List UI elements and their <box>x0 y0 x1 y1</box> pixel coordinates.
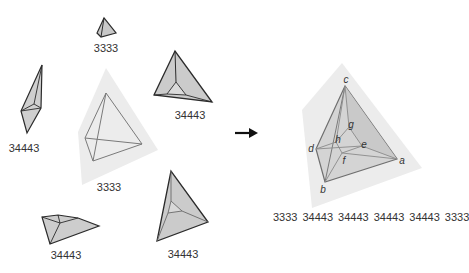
flat-bottom-left-polyhedron <box>42 215 99 244</box>
sequence-item: 34443 <box>302 211 333 223</box>
sequence-item: 3333 <box>445 211 469 223</box>
vertex-label-h: h <box>335 135 341 145</box>
vertex-label-f: f <box>343 156 346 166</box>
vertex-label-g: g <box>348 120 354 130</box>
spindle-left-label: 34443 <box>9 142 40 154</box>
vertex-label-c: c <box>344 75 349 85</box>
center-halo-tetrahedron <box>78 68 158 185</box>
sequence-item: 3333 <box>273 211 297 223</box>
right-arrow-icon <box>235 128 258 138</box>
tetra-top-right-polyhedron <box>154 51 212 102</box>
vertex-label-d: d <box>308 144 314 154</box>
vertex-label-a: a <box>399 156 405 166</box>
small-top-label: 3333 <box>94 42 118 54</box>
vertex-label-b: b <box>320 185 326 195</box>
center-halo-label: 3333 <box>97 181 121 193</box>
flat-bottom-left-label: 34443 <box>51 249 82 261</box>
tetra-bottom-right-polyhedron <box>157 171 208 241</box>
sequence-item: 34443 <box>338 211 369 223</box>
sequence-item: 34443 <box>409 211 440 223</box>
tetra-bottom-right-label: 34443 <box>168 248 199 260</box>
vertex-label-e: e <box>361 140 367 150</box>
small-top-tetrahedron <box>97 18 116 37</box>
spindle-left-polyhedron <box>21 65 42 133</box>
tetra-top-right-label: 34443 <box>175 109 206 121</box>
decomposition-sequence: 3333 34443 34443 34443 34443 3333 <box>273 211 469 223</box>
sequence-item: 34443 <box>374 211 405 223</box>
